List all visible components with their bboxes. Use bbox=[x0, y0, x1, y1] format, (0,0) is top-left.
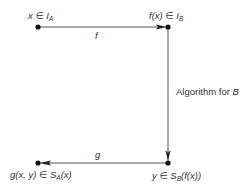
label-var: y bbox=[152, 170, 157, 181]
edge-algorithm-label: Algorithm for B bbox=[176, 86, 239, 97]
label-var: f(x) bbox=[149, 10, 163, 21]
label-rel: ∈ bbox=[35, 10, 43, 21]
label-prefix: Algorithm for bbox=[176, 86, 233, 97]
node-bottom-right-dot bbox=[165, 160, 170, 165]
label-arg: (x) bbox=[61, 169, 72, 180]
label-rel: ∈ bbox=[39, 169, 47, 180]
label-rel: ∈ bbox=[159, 170, 167, 181]
node-bottom-left-dot bbox=[35, 160, 40, 165]
label-var: B bbox=[233, 86, 239, 97]
label-arg: (f(x)) bbox=[181, 170, 201, 181]
label-sub: A bbox=[49, 15, 53, 22]
node-top-right-label: f(x) ∈ IB bbox=[149, 10, 183, 22]
label-var: g(x, y) bbox=[10, 169, 36, 180]
node-bottom-right-label: y ∈ SB(f(x)) bbox=[152, 170, 201, 182]
node-top-right-dot bbox=[165, 24, 170, 29]
label-sub: B bbox=[179, 15, 183, 22]
edge-g-label: g bbox=[95, 149, 100, 160]
node-top-left-dot bbox=[35, 24, 40, 29]
label-var: x bbox=[28, 10, 33, 21]
node-top-left-label: x ∈ IA bbox=[28, 10, 53, 22]
node-bottom-left-label: g(x, y) ∈ SA(x) bbox=[10, 169, 72, 181]
label-rel: ∈ bbox=[165, 10, 173, 21]
edge-f-label: f bbox=[95, 30, 98, 41]
